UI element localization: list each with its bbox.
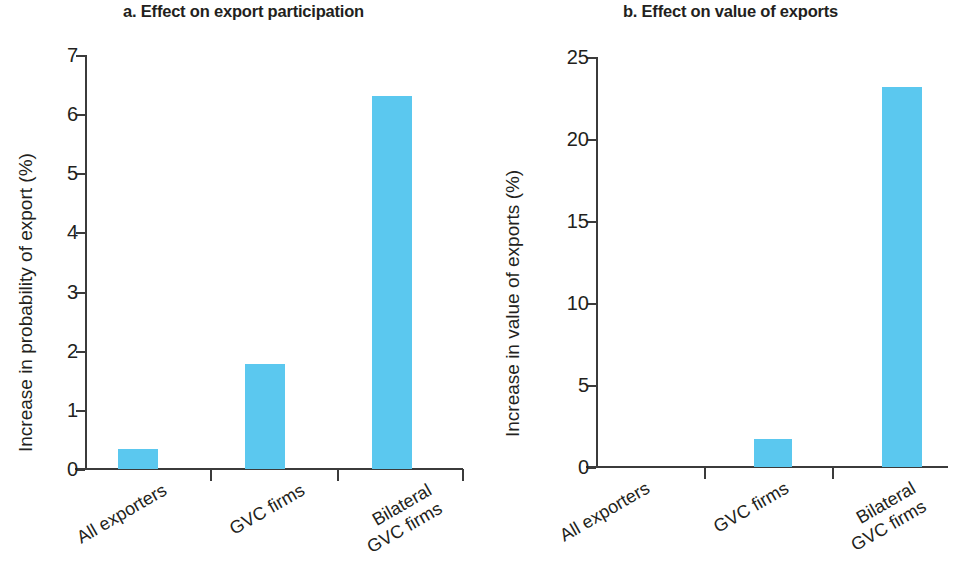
panel-b-ytick-label-0: 0 [578, 457, 589, 477]
panel-a-xtick-1 [210, 469, 212, 481]
panel-b-y-axis-label: Increase in value of exports (%) [503, 170, 522, 437]
panel-b-ytick-label-10: 10 [567, 293, 589, 313]
panel-a-ytick-label-6: 6 [67, 104, 78, 124]
panel-a-title: a. Effect on export participation [0, 2, 487, 21]
panel-a-cat-label-all-exporters: All exporters [56, 480, 170, 558]
panel-b-xtick-2 [832, 467, 834, 479]
panel-a-bar-gvc-firms [245, 364, 285, 469]
panel-a-cat-label-gvc-firms: GVC firms [194, 480, 308, 558]
panel-a-plot-area: 7 6 5 4 3 2 1 0 [85, 55, 463, 469]
panel-a: a. Effect on export participation Increa… [0, 0, 487, 588]
panel-a-y-axis-line [85, 55, 87, 469]
panel-a-xtick-3 [462, 469, 464, 481]
panel-b-cat-label-gvc-firms: GVC firms [678, 478, 792, 556]
panel-b-bar-bilateral-gvc [882, 87, 922, 467]
panel-b: b. Effect on value of exports Increase i… [487, 0, 974, 588]
panel-a-ytick-label-4: 4 [67, 222, 78, 242]
panel-a-ytick-label-1: 1 [67, 400, 78, 420]
panel-b-bar-gvc-firms [754, 439, 792, 467]
panel-a-bar-bilateral-gvc [372, 96, 412, 469]
panel-a-cat-label-bilateral-gvc: Bilateral GVC firms [321, 480, 446, 576]
panel-a-ytick-label-5: 5 [67, 163, 78, 183]
panel-b-ytick-label-15: 15 [567, 211, 589, 231]
panel-b-ytick-label-20: 20 [567, 129, 589, 149]
panel-a-ytick-label-0: 0 [67, 459, 78, 479]
panel-b-cat-label-all-exporters: All exporters [539, 478, 653, 556]
panel-b-title: b. Effect on value of exports [487, 2, 974, 21]
panel-a-ytick-label-3: 3 [67, 282, 78, 302]
panel-b-plot-area: 25 20 15 10 5 0 [596, 57, 948, 467]
panel-a-bar-all-exporters [118, 449, 158, 469]
panel-a-ytick-label-7: 7 [67, 45, 78, 65]
panel-b-ytick-label-25: 25 [567, 47, 589, 67]
panel-a-ytick-label-2: 2 [67, 341, 78, 361]
panel-a-xtick-2 [337, 469, 339, 481]
figure-two-panel-bar-chart: a. Effect on export participation Increa… [0, 0, 974, 588]
panel-b-ytick-label-5: 5 [578, 375, 589, 395]
panel-b-y-axis-line [596, 57, 598, 467]
panel-b-xtick-1 [704, 467, 706, 479]
panel-b-cat-label-bilateral-gvc: Bilateral GVC firms [805, 478, 930, 574]
panel-a-y-axis-label: Increase in probability of export (%) [16, 153, 35, 452]
